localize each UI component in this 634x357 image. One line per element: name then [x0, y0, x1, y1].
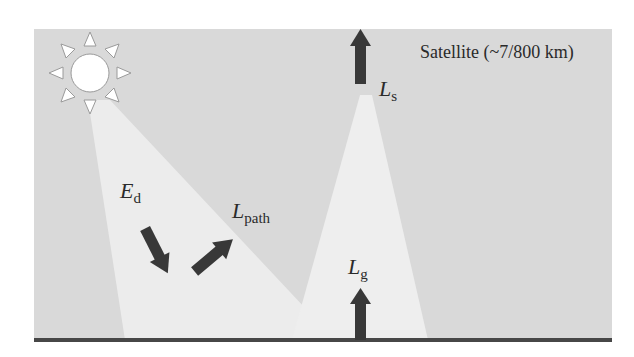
ed-symbol: E: [120, 178, 133, 203]
radiance-diagram: Satellite (~7/800 km) Ls Ed Lpath Lg: [0, 0, 634, 357]
ls-label: Ls: [379, 76, 397, 105]
lpath-symbol: L: [232, 198, 244, 223]
sun-icon: [49, 32, 131, 114]
lg-subscript: g: [360, 266, 368, 282]
ground-line: [34, 338, 612, 342]
lpath-label: Lpath: [232, 198, 270, 227]
ed-label: Ed: [120, 178, 141, 207]
lg-label: Lg: [348, 254, 368, 283]
ls-symbol: L: [379, 76, 391, 101]
lg-symbol: L: [348, 254, 360, 279]
lpath-subscript: path: [244, 210, 270, 226]
ls-subscript: s: [391, 88, 397, 104]
ed-subscript: d: [133, 190, 141, 206]
satellite-label: Satellite (~7/800 km): [420, 42, 574, 63]
